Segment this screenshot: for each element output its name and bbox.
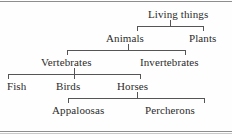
connector-parent-stub [74,68,75,74]
connector-tick-right [140,74,141,79]
bottom-rule-secondary [0,133,232,134]
connector-tick-left [8,74,9,79]
connector-tick-right [204,98,205,103]
node-vertebrates: Vertebrates [41,56,92,68]
bottom-rule [0,131,232,132]
node-birds: Birds [56,80,80,92]
connector-tick-middle [74,74,75,79]
connector-bar [68,98,205,99]
connector-bar [137,26,204,27]
node-percherons: Percherons [145,104,195,116]
node-fish: Fish [7,80,26,92]
node-appaloosas: Appaloosas [52,104,104,116]
node-horses: Horses [117,80,148,92]
node-plants: Plants [189,32,217,44]
connector-tick-right [203,26,204,31]
connector-parent-stub [128,44,129,50]
connector-tick-left [137,26,138,31]
node-animals: Animals [106,32,144,44]
taxonomy-tree-diagram: Living things Animals Plants Vertebrates… [0,0,232,138]
connector-tick-left [68,98,69,103]
connector-tick-right [185,50,186,55]
connector-bar [67,50,186,51]
top-rule [0,1,232,2]
node-invertebrates: Invertebrates [140,56,199,68]
connector-parent-stub [170,20,171,26]
connector-parent-stub [137,92,138,98]
node-living-things: Living things [148,8,208,20]
connector-tick-left [67,50,68,55]
